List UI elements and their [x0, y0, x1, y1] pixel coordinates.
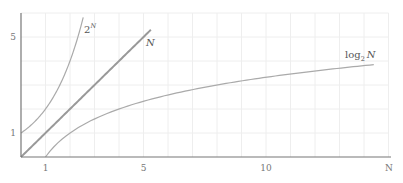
chart: 151015 N 2N N log2N	[0, 0, 403, 183]
x-tick-label: 1	[43, 163, 49, 173]
x-tick-label: 10	[260, 163, 272, 173]
curve-2-pow-n	[21, 17, 83, 133]
grid-lines	[21, 13, 389, 157]
x-tick-label: 5	[141, 163, 147, 173]
x-axis-title: N	[385, 163, 393, 173]
curves	[21, 17, 374, 157]
y-tick-label: 5	[10, 32, 16, 42]
y-tick-label: 1	[10, 128, 16, 138]
line-n	[21, 30, 151, 157]
label-n: N	[145, 37, 156, 48]
